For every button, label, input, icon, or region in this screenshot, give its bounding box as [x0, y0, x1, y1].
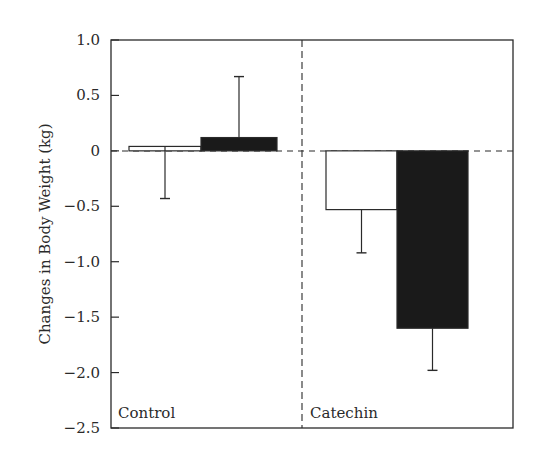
y-tick-label: −2.0 — [64, 364, 100, 382]
y-tick-label: 0.5 — [76, 86, 100, 104]
bar-control-black — [201, 138, 277, 151]
y-axis-label: Changes in Body Weight (kg) — [36, 123, 54, 344]
bar-catechin-white — [326, 151, 397, 210]
y-tick-label: −0.5 — [64, 197, 100, 215]
y-tick-label: −2.5 — [64, 419, 100, 437]
y-tick-label: −1.5 — [64, 308, 100, 326]
y-tick-label: 0 — [90, 142, 100, 160]
y-tick-label: −1.0 — [64, 253, 100, 271]
bar-catechin-black — [397, 151, 468, 328]
bar-chart: 1.00.50−0.5−1.0−1.5−2.0−2.5 Changes in B… — [0, 0, 542, 465]
bars — [129, 77, 468, 371]
y-tick-label: 1.0 — [76, 31, 100, 49]
group-label-control: Control — [118, 404, 175, 422]
group-label-catechin: Catechin — [310, 404, 378, 422]
